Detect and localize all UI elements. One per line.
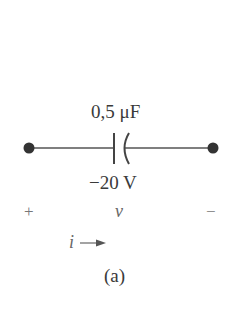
initial-voltage-label: −20 V <box>89 172 137 194</box>
current-symbol: i <box>69 232 74 253</box>
current-arrow-head <box>96 240 106 247</box>
left-terminal-node <box>24 143 35 154</box>
voltage-symbol: v <box>115 201 123 222</box>
minus-polarity-sign: − <box>206 202 216 222</box>
right-terminal-node <box>208 143 219 154</box>
figure-caption: (a) <box>104 265 125 287</box>
capacitance-label: 0,5 μF <box>91 101 140 123</box>
plus-polarity-sign: + <box>24 202 34 222</box>
